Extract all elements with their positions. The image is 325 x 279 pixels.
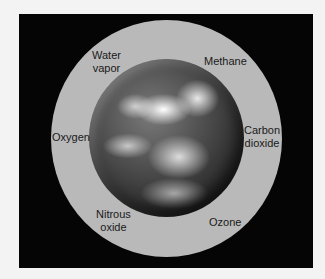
label-water-vapor-line1: Water (92, 49, 121, 62)
label-nitrous-oxide-line1: Nitrous (96, 208, 131, 221)
label-methane: Methane (204, 55, 247, 68)
earth-globe-image (89, 59, 244, 217)
label-carbon-dioxide-line2: dioxide (244, 137, 280, 150)
label-carbon-dioxide-line1: Carbon (244, 124, 280, 137)
label-carbon-dioxide: Carbon dioxide (244, 124, 280, 150)
label-ozone: Ozone (209, 216, 241, 229)
label-nitrous-oxide-line2: oxide (96, 221, 131, 234)
label-nitrous-oxide: Nitrous oxide (96, 208, 131, 234)
label-water-vapor-line2: vapor (92, 62, 121, 75)
label-oxygen: Oxygen (52, 131, 90, 144)
label-water-vapor: Water vapor (92, 49, 121, 75)
